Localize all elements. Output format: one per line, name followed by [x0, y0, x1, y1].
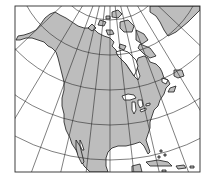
- arctic-island: [106, 16, 110, 19]
- north-america-map: [0, 0, 212, 185]
- bahamas: [160, 150, 162, 152]
- map-container: [0, 0, 212, 185]
- newfoundland: [174, 70, 184, 78]
- hispaniola: [176, 165, 186, 169]
- lake-superior: [122, 94, 136, 100]
- bahamas: [158, 156, 160, 158]
- puerto-rico: [190, 166, 194, 168]
- lake-ontario: [146, 103, 150, 106]
- bahamas: [164, 154, 166, 156]
